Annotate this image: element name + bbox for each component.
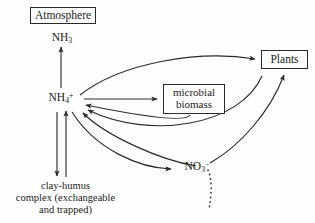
clay-humus-label-line2: complex (exchangeable xyxy=(0,192,131,204)
clay-humus-label-line3: and trapped) xyxy=(0,204,131,216)
ammonium-label-superscript: + xyxy=(69,91,73,100)
nitrogen-cycle-diagram: Atmosphere NH3 NH4+ microbial biomass Pl… xyxy=(0,0,315,223)
edge-nitrate-to-ammonium xyxy=(83,113,196,166)
clay-humus-label-line1: clay-humus xyxy=(0,180,131,192)
node-nitrate: NO3− xyxy=(175,160,219,174)
node-plants: Plants xyxy=(261,50,308,69)
node-ammonium: NH4+ xyxy=(36,91,86,105)
edge-nitrate-leaching-dotted xyxy=(208,170,211,210)
nitrate-label-base: NO xyxy=(185,160,202,172)
node-ammonia: NH3 xyxy=(38,31,86,45)
nitrate-label-superscript: − xyxy=(205,160,209,169)
node-clay-humus-complex: clay-humus complex (exchangeable and tra… xyxy=(0,180,131,215)
node-atmosphere: Atmosphere xyxy=(30,7,96,24)
atmosphere-label: Atmosphere xyxy=(35,9,91,21)
ammonia-label-base: NH xyxy=(52,31,69,43)
node-microbial-biomass: microbial biomass xyxy=(163,84,225,114)
plants-label: Plants xyxy=(270,53,298,65)
microbial-biomass-label-line2: biomass xyxy=(176,99,212,111)
ammonia-label-subscript: 3 xyxy=(68,36,72,45)
ammonium-label-base: NH xyxy=(49,91,66,103)
edge-ammonium-to-nitrate xyxy=(72,112,171,169)
